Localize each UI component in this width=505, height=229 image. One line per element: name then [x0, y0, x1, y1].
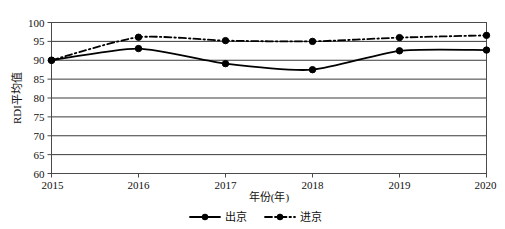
x-tick-label: 2020 — [475, 179, 498, 191]
data-point-marker — [222, 37, 228, 43]
y-tick-label: 85 — [34, 73, 46, 85]
x-axis-title: 年份(年) — [249, 190, 290, 204]
data-point-marker — [48, 57, 54, 63]
x-tick-label: 2015 — [42, 179, 65, 191]
y-tick-label: 70 — [34, 130, 46, 142]
line-chart: 6065707580859095100 20152016201720182019… — [0, 0, 505, 229]
y-tick-label: 80 — [34, 92, 46, 104]
data-point-marker — [396, 34, 402, 40]
legend-label: 出京 — [225, 210, 247, 223]
x-tick-label: 2017 — [215, 179, 238, 191]
data-point-marker — [135, 45, 141, 51]
legend-marker — [277, 214, 283, 220]
data-point-marker — [396, 48, 402, 54]
y-tick-label: 65 — [34, 149, 46, 161]
data-point-marker — [222, 60, 228, 66]
chart-figure: 6065707580859095100 20152016201720182019… — [0, 0, 505, 229]
data-point-marker — [135, 34, 141, 40]
y-axis-title: RDI平均值 — [11, 72, 23, 124]
legend-label: 进京 — [300, 210, 322, 223]
x-tick-label: 2016 — [128, 179, 151, 191]
data-point-marker — [309, 38, 315, 44]
y-tick-label: 100 — [28, 17, 45, 29]
y-tick-label: 95 — [34, 35, 46, 47]
x-tick-label: 2019 — [389, 179, 412, 191]
y-tick-label: 75 — [34, 111, 46, 123]
data-point-marker — [309, 66, 315, 72]
x-tick-label: 2018 — [302, 179, 325, 191]
data-point-marker — [483, 47, 489, 53]
legend-marker — [202, 214, 208, 220]
data-point-marker — [483, 32, 489, 38]
y-tick-label: 90 — [34, 54, 46, 66]
